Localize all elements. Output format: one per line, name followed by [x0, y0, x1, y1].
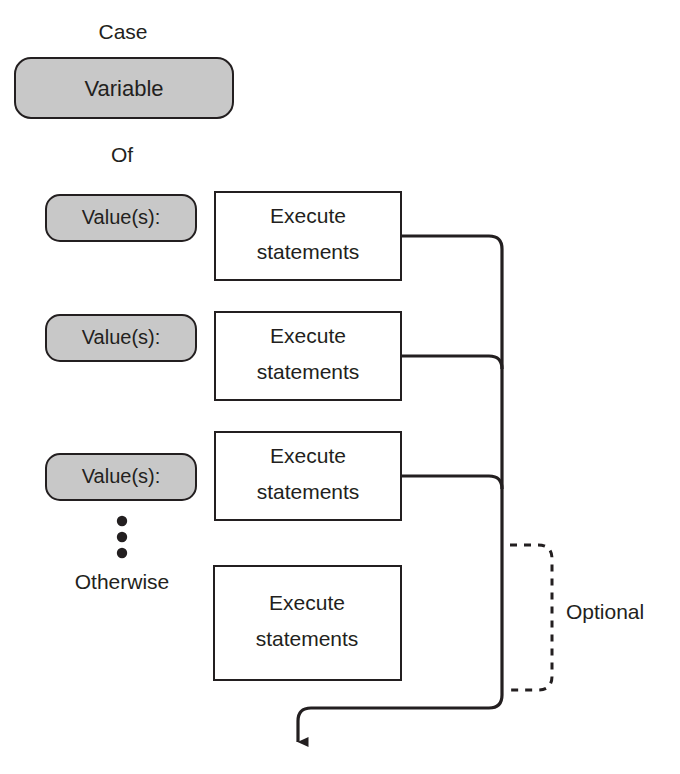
case-keyword-label: Case: [98, 20, 147, 43]
variable-node-label: Variable: [84, 76, 163, 101]
case-structure-diagram: Case Variable Of Value(s): Execute state…: [0, 0, 680, 774]
branch-3-connector: [401, 476, 502, 489]
default-branch-action-label-line2: statements: [256, 627, 359, 650]
branch-3-condition-label: Value(s):: [82, 465, 161, 487]
branch-2-action-label-line2: statements: [257, 360, 360, 383]
vertical-ellipsis-icon: [117, 516, 127, 558]
optional-bracket: [510, 545, 552, 690]
branch-1-connector: [401, 236, 502, 695]
optional-annotation-label: Optional: [566, 600, 644, 623]
branch-3-action-label-line1: Execute: [270, 444, 346, 467]
branch-1-action-label-line1: Execute: [270, 204, 346, 227]
otherwise-keyword-label: Otherwise: [75, 570, 170, 593]
branch-3-action-label-line2: statements: [257, 480, 360, 503]
branch-1-action-label-line2: statements: [257, 240, 360, 263]
default-branch-action-shape[interactable]: [214, 566, 401, 680]
branch-2-action-label-line1: Execute: [270, 324, 346, 347]
exit-flow-arrow: [298, 695, 502, 742]
default-branch-action-label-line1: Execute: [269, 591, 345, 614]
branch-1-condition-label: Value(s):: [82, 206, 161, 228]
branch-2-condition-label: Value(s):: [82, 326, 161, 348]
diagram-canvas: Case Variable Of Value(s): Execute state…: [0, 0, 680, 774]
of-keyword-label: Of: [111, 143, 133, 166]
branch-2-connector: [401, 356, 502, 369]
